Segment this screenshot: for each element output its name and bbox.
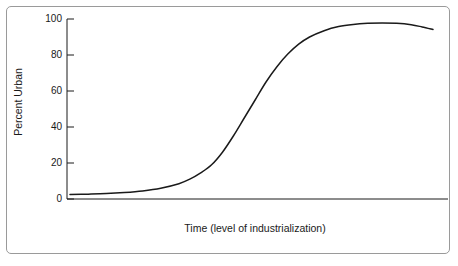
series-line-percent-urban <box>70 23 433 195</box>
y-tick-label-20: 20 <box>36 158 62 168</box>
y-tick-label-0: 0 <box>36 194 62 204</box>
y-tick-label-80: 80 <box>36 50 62 60</box>
y-tick-label-100: 100 <box>36 14 62 24</box>
y-tick-label-60: 60 <box>36 86 62 96</box>
plot-area: 100 80 60 40 20 0 Percent Urban Time (le… <box>0 0 458 266</box>
y-tick-label-40: 40 <box>36 122 62 132</box>
y-axis-ticks <box>67 19 74 199</box>
x-axis-title: Time (level of industrialization) <box>60 222 450 234</box>
figure-root: 100 80 60 40 20 0 Percent Urban Time (le… <box>0 0 458 266</box>
y-axis-title: Percent Urban <box>12 42 24 162</box>
